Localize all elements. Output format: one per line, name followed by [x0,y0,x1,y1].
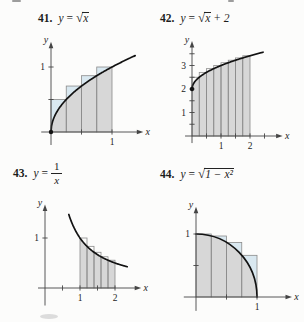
print-artifact [12,0,21,2]
equals-sign: = [66,11,73,25]
svg-text:1: 1 [219,141,224,151]
svg-text:1: 1 [185,229,190,239]
x-axis-label: x [145,126,151,137]
svg-text:1: 1 [181,108,186,118]
radical: √x [198,12,211,24]
problem-42-formula: y=√x + 2 [180,11,229,25]
radicand: x [204,12,211,24]
formula-var: y [58,11,63,25]
svg-text:1: 1 [40,62,45,72]
equals-sign: = [188,11,195,25]
endpoint-dot [49,130,53,134]
radical: √x [76,12,89,24]
formula-var: y [180,167,185,181]
problem-41-title: 41. y=√x [38,11,91,25]
problem-44-title: 44. y=√1 − x² [160,167,236,181]
formula-suffix: + 2 [213,11,229,25]
formula-var: y [180,11,185,25]
svg-text:1: 1 [34,233,39,243]
scan-smudge [40,314,58,319]
problem-43-number: 43. [13,166,27,180]
fraction-numerator: 1 [51,160,63,173]
svg-text:2: 2 [248,141,253,151]
plot-44-quarter-circle: 11xy [178,198,304,316]
problem-44-formula: y=√1 − x² [180,167,236,181]
endpoint-dot [190,87,194,91]
y-axis-label: y [184,34,190,45]
svg-text:3: 3 [181,61,186,71]
problem-43-formula: y=1x [33,160,62,186]
formula-var: y [33,166,38,180]
x-axis-label: x [142,282,148,293]
x-axis-label: x [284,130,290,141]
radicand: 1 − x² [204,168,234,180]
radical: √1 − x² [198,168,234,180]
problem-42-number: 42. [160,11,174,25]
svg-text:1: 1 [255,302,260,312]
textbook-page: 41. y=√x 42. y=√x + 2 43. y=1x 44. y=√1 … [0,0,304,322]
problem-44-number: 44. [160,167,174,181]
y-axis-label: y [43,34,49,45]
fraction-denominator: x [51,173,63,187]
fraction: 1x [51,160,63,186]
x-axis-label: x [293,291,299,302]
equals-sign: = [41,166,48,180]
problem-41-number: 41. [38,11,52,25]
problem-42-title: 42. y=√x + 2 [160,11,230,25]
y-axis-label: y [37,197,43,208]
svg-text:1: 1 [78,293,83,303]
radicand: x [82,12,89,24]
problem-43-title: 43. y=1x [13,160,62,186]
svg-text:1: 1 [110,137,115,147]
plot-43-one-over-x: 121xy [24,196,160,312]
problem-41-formula: y=√x [58,11,91,25]
equals-sign: = [188,167,195,181]
svg-text:2: 2 [113,293,118,303]
y-axis-label: y [188,199,194,210]
plot-42-sqrt-x-plus-2: 12123xy [172,30,298,152]
plot-41-sqrt-x: 11xy [26,34,152,152]
svg-text:2: 2 [181,84,186,94]
print-artifact [228,0,234,2]
